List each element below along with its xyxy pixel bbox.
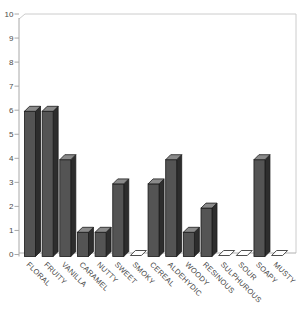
bar-front-face [166,160,177,257]
bar-floral [25,106,41,256]
bar-front-face [60,160,71,257]
bar-side-face [71,155,76,257]
bar-sour [236,251,252,256]
bar-front-face [113,184,124,257]
y-tick-label-6: 6 [9,106,14,115]
bar-chart: 012345678910FLORALFRUITYVANILLACARAMELNU… [0,0,307,310]
bar-front-face [201,208,212,256]
bar-side-face [159,179,164,257]
bar-sulphurous [219,251,235,256]
bar-side-face [36,106,41,256]
bar-caramel [77,227,93,256]
zero-bar-marker [272,251,288,256]
bar-side-face [177,155,182,257]
y-tick-label-3: 3 [9,178,14,187]
zero-bar-marker [219,251,235,256]
y-tick-label-2: 2 [9,202,14,211]
y-tick-label-7: 7 [9,82,14,91]
bar-fruity [42,106,58,256]
bar-front-face [42,111,53,256]
zero-bar-marker [236,251,252,256]
bar-front-face [25,111,36,256]
bar-cereal [148,179,164,257]
bar-smoky [130,251,146,256]
zero-bar-marker [130,251,146,256]
bar-aldehydic [166,155,182,257]
y-tick-label-8: 8 [9,58,14,67]
bar-front-face [77,232,88,256]
y-tick-label-5: 5 [9,130,14,139]
bar-front-face [148,184,159,257]
y-tick-label-1: 1 [9,226,14,235]
bar-side-face [124,179,129,257]
y-tick-label-4: 4 [9,154,14,163]
y-tick-label-0: 0 [9,250,14,259]
bar-vanilla [60,155,76,257]
bar-sweet [113,179,129,257]
y-tick-label-10: 10 [5,10,14,19]
wall-left-top-diagonal [19,14,25,19]
bar-nutty [95,227,111,256]
bar-front-face [254,160,265,257]
bar-musty [272,251,288,256]
bar-side-face [265,155,270,257]
bar-soapy [254,155,270,257]
y-tick-label-9: 9 [9,34,14,43]
chart-canvas: 012345678910FLORALFRUITYVANILLACARAMELNU… [0,0,307,310]
bar-front-face [95,232,106,256]
bar-resinous [201,203,217,256]
bar-side-face [53,106,58,256]
bar-side-face [212,203,217,256]
bar-front-face [183,232,194,256]
bar-woody [183,227,199,256]
